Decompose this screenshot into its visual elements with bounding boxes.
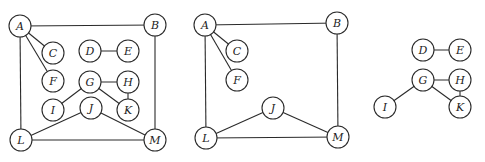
edge-a-b [205, 23, 337, 25]
node-label: B [332, 17, 341, 30]
node-label: A [200, 19, 209, 32]
node-l: L [195, 127, 217, 149]
node-label: I [50, 104, 56, 117]
node-label: B [150, 19, 159, 32]
node-i: I [374, 96, 396, 118]
node-label: D [418, 44, 428, 57]
node-b: B [144, 14, 166, 36]
node-label: L [16, 134, 24, 147]
node-h: H [117, 71, 139, 93]
node-label: C [49, 47, 58, 60]
node-g: G [79, 71, 101, 93]
node-label: E [455, 44, 464, 57]
node-i: I [42, 99, 64, 121]
edge-b-m [337, 23, 338, 137]
node-label: M [331, 131, 344, 144]
node-f: F [42, 70, 64, 92]
node-label: L [201, 132, 209, 145]
node-b: B [326, 12, 348, 34]
node-label: K [455, 101, 465, 114]
edge-l-m [206, 137, 338, 138]
edge-a-b [20, 25, 155, 26]
node-label: F [232, 74, 241, 87]
node-j: J [80, 97, 102, 119]
node-k: K [449, 96, 471, 118]
node-c: C [226, 40, 248, 62]
node-label: F [48, 75, 57, 88]
node-label: M [148, 134, 161, 147]
node-label: J [269, 102, 276, 115]
node-label: G [419, 74, 428, 87]
node-label: J [87, 102, 94, 115]
graph-component-1: ABCFJLM [194, 12, 349, 149]
node-j: J [262, 97, 284, 119]
node-l: L [10, 129, 32, 151]
node-label: I [382, 101, 388, 114]
node-c: C [42, 42, 64, 64]
node-a: A [194, 14, 216, 36]
node-d: D [79, 40, 101, 62]
node-label: K [123, 104, 133, 117]
node-m: M [144, 129, 166, 151]
node-m: M [327, 126, 349, 148]
node-k: K [117, 99, 139, 121]
node-h: H [449, 69, 471, 91]
edge-a-l [205, 25, 206, 138]
graph-diagram-canvas: ABCDEFGHIJKLM ABCFJLM DEGHIK [0, 0, 485, 162]
node-a: A [9, 15, 31, 37]
node-label: C [233, 45, 242, 58]
edge-a-l [20, 26, 21, 140]
node-label: G [86, 76, 95, 89]
node-label: E [123, 45, 132, 58]
graph-components-2-3: DEGHIK [374, 39, 471, 118]
node-d: D [412, 39, 434, 61]
node-g: G [412, 69, 434, 91]
node-label: A [15, 20, 24, 33]
node-label: H [122, 76, 133, 89]
node-e: E [449, 39, 471, 61]
node-e: E [117, 40, 139, 62]
node-label: D [85, 45, 95, 58]
node-f: F [226, 69, 248, 91]
node-label: H [454, 74, 465, 87]
graph-full: ABCDEFGHIJKLM [9, 14, 166, 151]
